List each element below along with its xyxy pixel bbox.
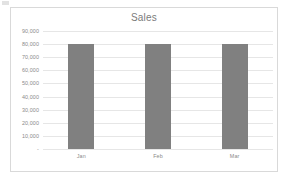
x-axis: JanFebMar <box>43 151 273 167</box>
chart-object-frame[interactable]: Sales 90,00080,00070,00060,00050,00040,0… <box>10 7 278 172</box>
bar[interactable] <box>68 44 94 149</box>
y-tick-label: 10,000 <box>22 133 39 139</box>
x-tick-label: Feb <box>153 153 163 159</box>
y-tick-label: 50,000 <box>22 80 39 86</box>
y-tick-label: 90,000 <box>22 28 39 34</box>
y-tick-label: 80,000 <box>22 41 39 47</box>
bar-series <box>43 31 273 149</box>
y-axis: 90,00080,00070,00060,00050,00040,00030,0… <box>11 31 42 149</box>
y-tick-label: - <box>37 146 39 152</box>
bar[interactable] <box>145 44 171 149</box>
y-tick-label: 20,000 <box>22 120 39 126</box>
gridline <box>43 149 273 150</box>
x-tick-label: Jan <box>77 153 86 159</box>
bar[interactable] <box>222 44 248 149</box>
y-tick-label: 60,000 <box>22 67 39 73</box>
chart-title: Sales <box>11 12 277 23</box>
y-tick-label: 40,000 <box>22 94 39 100</box>
y-tick-label: 30,000 <box>22 107 39 113</box>
x-tick-label: Mar <box>230 153 240 159</box>
corner-artifact <box>2 1 9 5</box>
y-tick-label: 70,000 <box>22 54 39 60</box>
plot-area <box>43 31 273 149</box>
